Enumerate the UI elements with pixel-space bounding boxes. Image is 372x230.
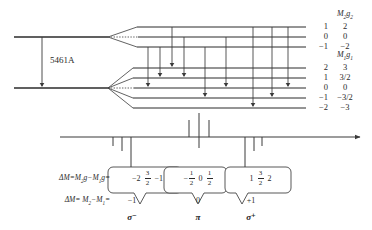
lower-sublevel-m-label-0: 2	[308, 63, 328, 72]
lower-sublevel-m-label-3: −1	[308, 93, 328, 102]
lower-sublevel-m-label-2: 0	[308, 83, 328, 92]
upper-sublevel-lines	[137, 27, 306, 47]
shift-pi-2: 0	[199, 175, 203, 183]
spectral-lines-sigma-plus	[245, 137, 262, 169]
delta-m-row-label: ΔM= M2−M1=	[26, 196, 110, 206]
delta-m-value-sigma-minus: −1	[117, 197, 147, 205]
spectral-lines-sigma-minus	[113, 137, 131, 169]
shift-sm-2: 32	[145, 170, 151, 186]
callout-text-pi: − 12 0 12	[169, 168, 227, 189]
lower-sublevel-mg-label-1: 3/2	[330, 73, 360, 82]
upper-sublevel-m-label-2: −1	[308, 42, 328, 51]
upper-sublevel-mg-label-0: 2	[330, 22, 360, 31]
polarization-label-sigma-minus: σ⁻	[117, 213, 147, 222]
wavelength-label: 5461A	[50, 56, 75, 65]
polarization-label-pi: π	[183, 213, 213, 222]
upper-sublevel-m-label-1: 0	[308, 32, 328, 41]
delta-mg-row-label: ΔM=M2g−M1g=	[26, 174, 110, 184]
transition-arrows	[148, 27, 288, 106]
lower-sublevel-m-label-1: 1	[308, 73, 328, 82]
delta-m-value-sigma-plus: +1	[236, 197, 266, 205]
shift-sp-2: 32	[258, 170, 264, 186]
callout-text-sigma-plus: 1 32 2	[230, 168, 291, 189]
shift-sm-3: −1	[155, 175, 164, 183]
lower-sublevel-lines	[133, 68, 306, 108]
lower-level-column-header: M1g1	[325, 51, 365, 61]
shift-pi-3: 12	[207, 170, 213, 186]
lower-sublevel-mg-label-4: −3	[330, 103, 360, 112]
polarization-label-sigma-plus: σ⁺	[236, 213, 266, 222]
lower-sublevel-mg-label-2: 0	[330, 83, 360, 92]
spectral-lines-pi	[189, 113, 209, 137]
upper-level-column-header: M2g2	[325, 10, 365, 20]
upper-sublevel-m-label-0: 1	[308, 22, 328, 31]
shift-sm-1: −2	[132, 175, 141, 183]
lower-sublevel-mg-label-0: 3	[330, 63, 360, 72]
delta-m-value-pi: 0	[183, 197, 213, 205]
upper-sublevel-mg-label-1: 0	[330, 32, 360, 41]
shift-sp-3: 2	[268, 175, 272, 183]
shift-sp-1: 1	[250, 175, 254, 183]
zeeman-diagram-figure: 5461A M2g2 1 0 −1 2 0 −2 M1g1 2 1 0 −1 −…	[0, 0, 372, 230]
upper-sublevel-mg-label-2: −2	[330, 42, 360, 51]
shift-pi-1: − 12	[183, 170, 194, 186]
lower-sublevel-m-label-4: −2	[308, 103, 328, 112]
lower-sublevel-mg-label-3: −3/2	[330, 93, 360, 102]
